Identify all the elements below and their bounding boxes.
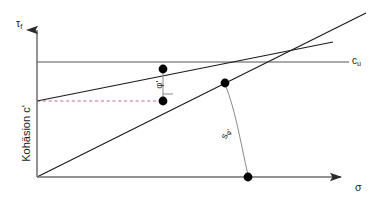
point-on-sigma-axis <box>244 173 253 182</box>
x-axis-label: σ <box>355 182 361 193</box>
total-stress-line <box>37 13 366 177</box>
cu-label: cu <box>352 56 361 67</box>
diagram-canvas: τf σ cu Kohäsion c' φ' sφ' <box>0 0 379 204</box>
point-cohesion-on-dashed <box>159 97 168 106</box>
y-axis-label: τf <box>16 18 22 31</box>
cu-label-subscript: u <box>357 59 361 68</box>
mohr-coulomb-plot <box>0 0 379 204</box>
phi-prime-symbol: φ <box>153 83 164 89</box>
point-cu-on-effective-line <box>159 65 168 74</box>
effective-strength-envelope <box>37 42 333 101</box>
point-intersection-envelope <box>221 79 230 88</box>
phi-prime-mark: ' <box>153 81 164 83</box>
x-axis-label-symbol: σ <box>355 181 361 193</box>
phi-prime-label: φ' <box>154 81 164 89</box>
y-axis-caption: Kohäsion c' <box>21 91 32 177</box>
y-axis-label-subscript: f <box>20 22 22 31</box>
